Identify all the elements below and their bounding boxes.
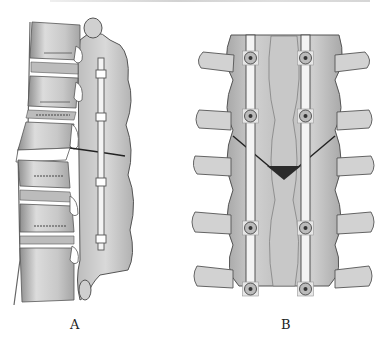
panel-a-lateral-spine [0, 0, 189, 310]
panel-label-a: A [70, 317, 79, 332]
panel-b-posterior-spine [189, 0, 378, 310]
lateral-spine-illustration [0, 0, 189, 310]
vertebral-bodies-upper [18, 22, 80, 150]
vertebral-bodies-lower [18, 160, 74, 302]
posterior-spine-illustration [189, 0, 378, 310]
panel-label-b: B [281, 317, 291, 332]
